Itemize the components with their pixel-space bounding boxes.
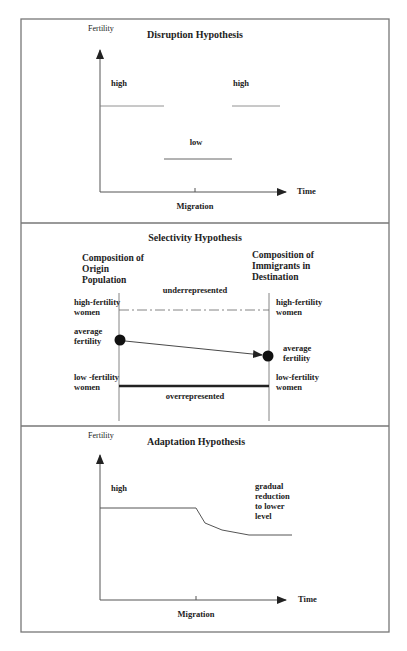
right-avg-line-1: average xyxy=(283,343,312,353)
right-header-line-1: Composition of xyxy=(252,250,315,260)
right-header-line-2: Immigrants in xyxy=(252,261,311,271)
tick-label: Migration xyxy=(178,609,215,619)
left-avg-line-2: fertility xyxy=(74,336,102,346)
right-low-line-1: low-fertility xyxy=(276,372,320,382)
panel-adaptation: Fertility Adaptation Hypothesis Time Mig… xyxy=(88,431,317,619)
left-header-line-3: Population xyxy=(82,275,127,285)
left-high-line-1: high-fertility xyxy=(74,297,121,307)
panel-title: Selectivity Hypothesis xyxy=(148,232,242,243)
left-high-line-2: women xyxy=(74,307,100,317)
left-low-line-2: women xyxy=(74,382,100,392)
right-low-line-2: women xyxy=(276,382,302,392)
hypotheses-figure: Fertility Disruption Hypothesis Time Mig… xyxy=(0,0,407,651)
panel-title: Disruption Hypothesis xyxy=(147,29,243,40)
right-header-line-3: Destination xyxy=(252,272,299,282)
label-high: high xyxy=(111,483,127,493)
right-high-line-2: women xyxy=(276,307,302,317)
shift-arrow xyxy=(125,341,262,355)
origin-average-dot xyxy=(115,335,126,346)
label-high-right: high xyxy=(233,78,249,88)
destination-average-dot xyxy=(263,351,274,362)
panel-selectivity: Selectivity Hypothesis Composition of Or… xyxy=(74,232,323,421)
top-band-label: underrepresented xyxy=(163,285,228,295)
note-line-3: to lower xyxy=(255,501,285,511)
note-line-1: gradual xyxy=(255,481,284,491)
panel-title: Adaptation Hypothesis xyxy=(147,436,245,447)
y-axis-label: Fertility xyxy=(88,431,114,440)
right-high-line-1: high-fertility xyxy=(276,297,323,307)
right-avg-line-2: fertility xyxy=(283,353,311,363)
left-header-line-1: Composition of xyxy=(82,253,145,263)
label-low: low xyxy=(190,137,204,147)
left-header-line-2: Origin xyxy=(82,264,110,274)
left-avg-line-1: average xyxy=(74,326,103,336)
note-line-4: level xyxy=(255,511,272,521)
y-axis-label: Fertility xyxy=(88,24,114,33)
x-axis-label: Time xyxy=(297,186,316,196)
tick-label: Migration xyxy=(177,201,214,211)
x-axis-label: Time xyxy=(298,594,317,604)
left-low-line-1: low -fertility xyxy=(74,372,120,382)
note-line-2: reduction xyxy=(255,491,290,501)
label-high-left: high xyxy=(111,78,127,88)
panel-disruption: Fertility Disruption Hypothesis Time Mig… xyxy=(88,24,316,211)
bottom-band-label: overrepresented xyxy=(166,391,225,401)
